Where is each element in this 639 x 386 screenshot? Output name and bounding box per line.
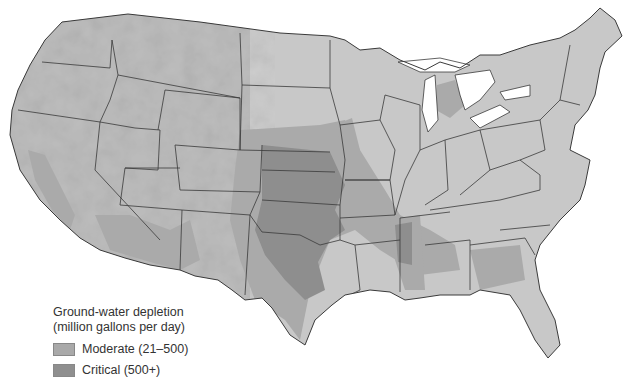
legend-label-moderate: Moderate (21–500) bbox=[82, 342, 188, 356]
legend-item-critical: Critical (500+) bbox=[53, 363, 188, 377]
legend-label-critical: Critical (500+) bbox=[82, 363, 160, 377]
legend: Ground-water depletion (million gallons … bbox=[53, 305, 188, 377]
legend-title-line1: Ground-water depletion bbox=[53, 305, 188, 320]
legend-title-line2: (million gallons per day) bbox=[53, 320, 188, 335]
moderate-swatch bbox=[53, 343, 75, 356]
critical-swatch bbox=[53, 364, 75, 377]
legend-item-moderate: Moderate (21–500) bbox=[53, 342, 188, 356]
